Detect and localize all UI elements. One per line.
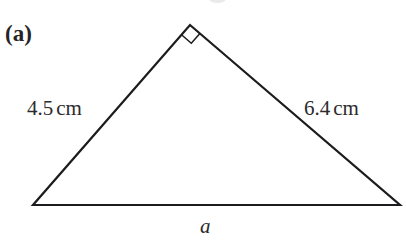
base-length-label: a xyxy=(200,216,211,237)
side-left-value: 4.5 xyxy=(27,96,53,120)
side-right-unit: cm xyxy=(333,96,359,120)
side-right-length-label: 6.4cm xyxy=(304,98,359,119)
part-label: (a) xyxy=(5,22,32,45)
geometry-figure: (a) 4.5cm 6.4cm a xyxy=(0,0,406,246)
side-left-unit: cm xyxy=(56,96,82,120)
triangle-drawing xyxy=(0,0,406,246)
side-left-length-label: 4.5cm xyxy=(27,98,82,119)
side-right-value: 6.4 xyxy=(304,96,330,120)
